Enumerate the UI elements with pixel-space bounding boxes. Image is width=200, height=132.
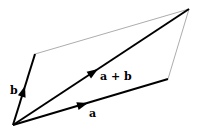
- arrowhead-icon: [18, 85, 29, 98]
- vector-addition-diagram: b a + b a: [0, 0, 200, 132]
- construction-line-b-to-sum: [35, 9, 189, 54]
- label-a: a: [89, 107, 96, 120]
- label-a-plus-b: a + b: [100, 70, 132, 83]
- arrowhead-icon: [87, 66, 101, 79]
- arrowhead-icon: [76, 99, 89, 110]
- vector-a-plus-b: [13, 9, 189, 125]
- construction-line-a-to-sum: [168, 9, 189, 79]
- label-b: b: [10, 84, 18, 97]
